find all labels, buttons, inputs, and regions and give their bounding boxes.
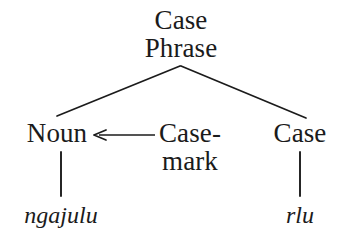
syntax-tree-diagram: Case Phrase Noun Case- mark Case ngajulu… (0, 0, 350, 246)
tree-node-case-phrase: Case Phrase (121, 6, 241, 62)
branch-line-root-to-noun (57, 66, 180, 116)
tree-node-case: Case (250, 119, 350, 147)
tree-node-noun: Noun (7, 119, 107, 147)
tree-terminal-rlu: rlu (250, 203, 350, 227)
branch-line-root-to-case (181, 66, 306, 118)
tree-terminal-ngajulu: ngajulu (6, 203, 116, 227)
tree-node-case-mark: Case- mark (140, 119, 240, 175)
